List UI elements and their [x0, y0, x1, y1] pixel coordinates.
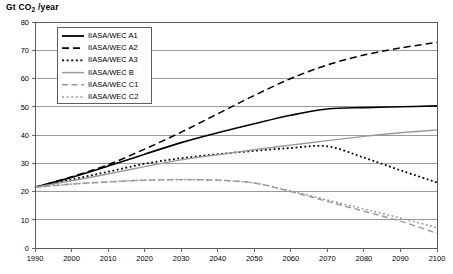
- y-tick-label: 70: [21, 46, 29, 55]
- y-tick-label: 50: [21, 103, 29, 112]
- legend-label-iiasa-wec-c2: IIASA/WEC C2: [88, 92, 138, 101]
- chart-legend: IIASA/WEC A1IIASA/WEC A2IIASA/WEC A3IIAS…: [57, 27, 151, 103]
- legend-label-iiasa-wec-b: IIASA/WEC B: [88, 68, 134, 77]
- x-tick-label: 2030: [173, 254, 190, 263]
- x-tick-label: 1990: [27, 254, 44, 263]
- x-tick-label: 2020: [136, 254, 153, 263]
- y-tick-label: 60: [21, 74, 29, 83]
- legend-label-iiasa-wec-c1: IIASA/WEC C1: [88, 80, 138, 89]
- x-tick-label: 2070: [319, 254, 336, 263]
- y-axis-ticks: 01020304050607080: [21, 18, 35, 253]
- x-tick-label: 2080: [356, 254, 373, 263]
- series-line-iiasa-wec-c2: [35, 180, 437, 228]
- y-tick-label: 80: [21, 18, 29, 27]
- x-tick-label: 2060: [282, 254, 299, 263]
- x-tick-label: 2000: [63, 254, 80, 263]
- series-line-iiasa-wec-a1: [35, 106, 437, 187]
- x-tick-label: 2050: [246, 254, 263, 263]
- series-line-iiasa-wec-b: [35, 130, 437, 187]
- legend-label-iiasa-wec-a2: IIASA/WEC A2: [88, 43, 138, 52]
- x-tick-label: 2100: [429, 254, 446, 263]
- x-tick-label: 2040: [209, 254, 226, 263]
- y-tick-label: 30: [21, 159, 29, 168]
- x-axis-ticks: 1990200020102020203020402050206020702080…: [27, 248, 446, 263]
- x-tick-label: 2010: [100, 254, 117, 263]
- x-tick-label: 2090: [392, 254, 409, 263]
- y-tick-label: 0: [25, 244, 29, 253]
- legend-label-iiasa-wec-a1: IIASA/WEC A1: [88, 31, 138, 40]
- y-tick-label: 20: [21, 187, 29, 196]
- plot-area-wrapper: 01020304050607080 1990200020102020203020…: [0, 0, 453, 274]
- chart-root: Gt CO2 /year 01020304050607080 199020002…: [0, 0, 453, 274]
- y-tick-label: 10: [21, 216, 29, 225]
- legend-label-iiasa-wec-a3: IIASA/WEC A3: [88, 55, 138, 64]
- series-line-iiasa-wec-c1: [35, 180, 437, 234]
- y-tick-label: 40: [21, 131, 29, 140]
- line-chart: 01020304050607080 1990200020102020203020…: [0, 0, 453, 274]
